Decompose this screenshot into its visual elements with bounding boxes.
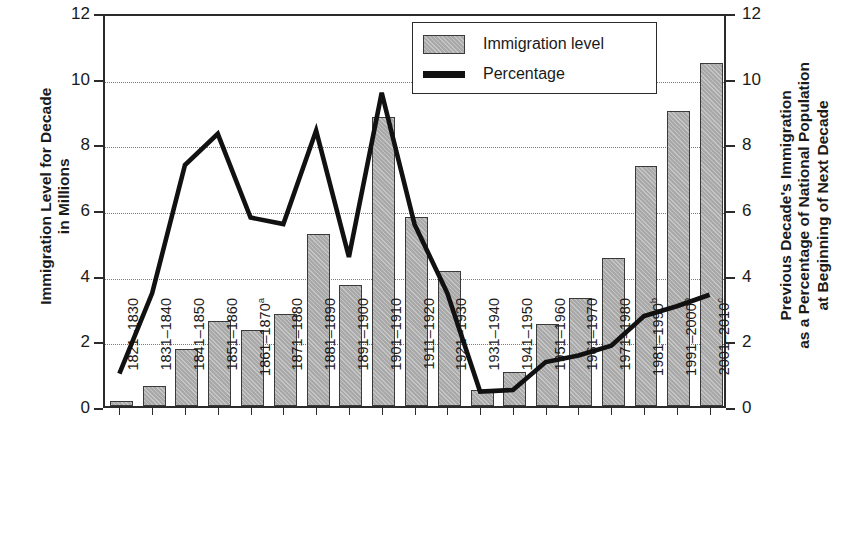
x-tick xyxy=(218,408,219,415)
y-tick-left xyxy=(94,408,103,410)
y-tick-label-left: 12 xyxy=(50,5,90,22)
chart-figure: Immigration Level for Decadein Millions … xyxy=(0,0,856,534)
x-tick xyxy=(447,408,448,415)
legend-label-immigration-level: Immigration level xyxy=(483,35,604,53)
y-tick-label-right: 10 xyxy=(742,71,782,88)
x-tick xyxy=(546,408,547,415)
x-tick-label: 1971–1980 xyxy=(617,298,633,418)
x-tick xyxy=(480,408,481,415)
x-tick-label: 1911–1920 xyxy=(421,298,437,418)
y-tick-right xyxy=(726,145,735,147)
x-tick xyxy=(382,408,383,415)
y-tick-left xyxy=(94,277,103,279)
x-tick-label: 1831–1840 xyxy=(158,298,174,418)
x-tick-label: 1921–1930 xyxy=(453,298,469,418)
legend-item-percentage: Percentage xyxy=(423,59,648,89)
line-swatch-icon xyxy=(423,71,465,78)
x-tick xyxy=(513,408,514,415)
gridline xyxy=(105,213,724,214)
y-tick-label-left: 2 xyxy=(50,333,90,350)
x-tick-label: 1841–1850 xyxy=(191,298,207,418)
y-tick-left xyxy=(94,145,103,147)
x-tick xyxy=(349,408,350,415)
x-tick-label: 1981–1990b xyxy=(650,298,666,418)
y-tick-label-left: 8 xyxy=(50,136,90,153)
y-tick-label-left: 0 xyxy=(50,399,90,416)
x-tick-label: 1931–1940 xyxy=(486,298,502,418)
x-tick-label: 1991–2000b xyxy=(683,298,699,418)
x-tick xyxy=(251,408,252,415)
legend-item-immigration-level: Immigration level xyxy=(423,29,648,59)
x-tick-label: 1951–1960 xyxy=(552,298,568,418)
x-tick-label: 1901–1910 xyxy=(388,298,404,418)
x-tick-label: 1821–1830 xyxy=(125,298,141,418)
x-tick-label: 1961–1970 xyxy=(584,298,600,418)
y-tick-label-right: 12 xyxy=(742,5,782,22)
y-tick-label-right: 8 xyxy=(742,136,782,153)
bar-swatch-icon xyxy=(423,35,465,54)
x-tick xyxy=(644,408,645,415)
y-tick-right xyxy=(726,80,735,82)
y-tick-label-right: 0 xyxy=(742,399,782,416)
y-tick-label-right: 2 xyxy=(742,333,782,350)
gridline xyxy=(105,147,724,148)
x-tick xyxy=(316,408,317,415)
y-tick-left xyxy=(94,342,103,344)
y-tick-label-right: 6 xyxy=(742,202,782,219)
y-tick-label-right: 4 xyxy=(742,268,782,285)
y-tick-right xyxy=(726,14,735,16)
y-tick-right xyxy=(726,211,735,213)
y-tick-label-left: 6 xyxy=(50,202,90,219)
x-tick xyxy=(152,408,153,415)
x-tick xyxy=(578,408,579,415)
x-tick xyxy=(119,408,120,415)
x-tick-label: 1851–1860 xyxy=(224,298,240,418)
y-tick-right xyxy=(726,277,735,279)
x-tick xyxy=(185,408,186,415)
y-tick-label-left: 4 xyxy=(50,268,90,285)
legend-label-percentage: Percentage xyxy=(483,65,565,83)
y-tick-left xyxy=(94,211,103,213)
x-tick-label: 1941–1950 xyxy=(519,298,535,418)
x-tick xyxy=(283,408,284,415)
y-axis-title-right: Previous Decade's Immigrationas a Percen… xyxy=(777,5,832,405)
x-tick xyxy=(611,408,612,415)
x-tick-label: 1891–1900 xyxy=(355,298,371,418)
y-tick-left xyxy=(94,80,103,82)
x-tick-label: 1871–1880 xyxy=(289,298,305,418)
x-tick xyxy=(415,408,416,415)
x-tick xyxy=(677,408,678,415)
x-tick xyxy=(710,408,711,415)
legend: Immigration level Percentage xyxy=(412,22,657,94)
x-tick-label: 1881–1890 xyxy=(322,298,338,418)
y-tick-label-left: 10 xyxy=(50,71,90,88)
x-tick-label: 2001–2010c xyxy=(716,298,732,418)
y-tick-left xyxy=(94,14,103,16)
x-tick-label: 1861–1870a xyxy=(257,298,273,418)
